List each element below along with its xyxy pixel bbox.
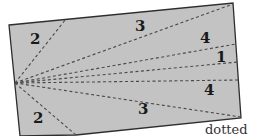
caption-fragment: dotted <box>205 122 248 136</box>
region-label-1: 2 <box>30 30 40 48</box>
region-label-7: 2 <box>33 109 43 127</box>
region-label-5: 4 <box>204 81 214 99</box>
region-label-3: 4 <box>200 29 210 47</box>
gray-rectangle <box>9 3 241 136</box>
region-label-2: 3 <box>135 17 145 35</box>
region-label-6: 3 <box>138 100 148 118</box>
region-label-4: 1 <box>216 48 226 66</box>
diagram-canvas: 2341432 dotted <box>0 0 253 136</box>
